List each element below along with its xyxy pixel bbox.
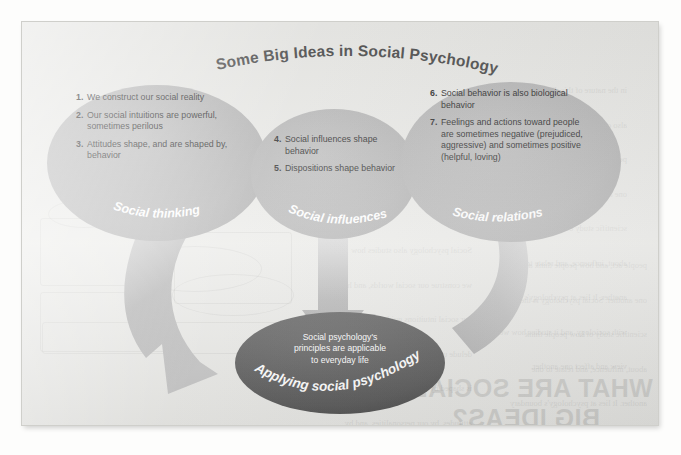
conclusion-line-3: to everyday life bbox=[260, 355, 420, 366]
idea-number: 7. bbox=[430, 117, 441, 163]
ideas-social-relations: 6. Social behavior is also biological be… bbox=[430, 88, 592, 170]
idea-item: 7. Feelings and actions toward people ar… bbox=[430, 117, 592, 163]
ideas-social-influences: 4. Social influences shape behavior 5. D… bbox=[274, 134, 400, 181]
scanned-page-panel: WHAT ARE SOCIAL BIG IDEAS? in the nature… bbox=[22, 22, 658, 425]
idea-item: 6. Social behavior is also biological be… bbox=[430, 88, 592, 111]
idea-text: Dispositions shape behavior bbox=[285, 163, 400, 175]
idea-number: 5. bbox=[274, 163, 285, 175]
idea-item: 3. Attitudes shape, and are shaped by, b… bbox=[76, 139, 236, 162]
idea-text: Attitudes shape, and are shaped by, beha… bbox=[87, 139, 236, 162]
idea-text: Social influences shape behavior bbox=[285, 134, 400, 157]
conclusion-text: Social psychology's principles are appli… bbox=[260, 332, 420, 366]
arrow-left-curve bbox=[124, 227, 218, 394]
idea-item: 4. Social influences shape behavior bbox=[274, 134, 400, 157]
idea-text: We construct our social reality bbox=[87, 92, 236, 104]
idea-number: 2. bbox=[76, 110, 87, 133]
idea-number: 1. bbox=[76, 92, 87, 104]
idea-item: 2. Our social intuitions are powerful, s… bbox=[76, 110, 236, 133]
idea-number: 3. bbox=[76, 139, 87, 162]
idea-number: 4. bbox=[274, 134, 285, 157]
idea-number: 6. bbox=[430, 88, 441, 111]
figure-title: Some Big Ideas in Social Psychology bbox=[214, 42, 500, 77]
ideas-social-thinking: 1. We construct our social reality 2. Ou… bbox=[76, 92, 236, 168]
idea-text: Social behavior is also biological behav… bbox=[441, 88, 592, 111]
idea-item: 1. We construct our social reality bbox=[76, 92, 236, 104]
idea-text: Our social intuitions are powerful, some… bbox=[87, 110, 236, 133]
idea-item: 5. Dispositions shape behavior bbox=[274, 163, 400, 175]
conclusion-line-1: Social psychology's bbox=[260, 332, 420, 343]
conclusion-line-2: principles are applicable bbox=[260, 343, 420, 354]
figure-canvas: WHAT ARE SOCIAL BIG IDEAS? in the nature… bbox=[0, 0, 681, 455]
idea-text: Feelings and actions toward people are s… bbox=[441, 117, 592, 163]
